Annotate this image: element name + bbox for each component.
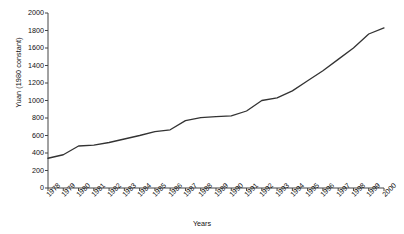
line-chart: Yuan (1980 constant) 0200400600800100012… xyxy=(0,0,404,234)
x-axis-tick-label: 1992 xyxy=(258,182,275,199)
x-axis-tick-label: 1996 xyxy=(319,182,336,199)
x-axis-tick-label: 1989 xyxy=(213,182,230,199)
x-axis-tick-label: 1979 xyxy=(60,182,77,199)
x-axis-tick-label: 1995 xyxy=(304,182,321,199)
x-axis-tick-label: 1984 xyxy=(136,182,153,199)
x-axis-tick-label: 1991 xyxy=(243,182,260,199)
x-axis-tick-label: 1997 xyxy=(335,182,352,199)
x-axis-tick-label: 1990 xyxy=(228,182,245,199)
x-axis-tick-label: 1998 xyxy=(350,182,367,199)
x-axis-tick-label: 1985 xyxy=(151,182,168,199)
x-axis-tick-label: 1978 xyxy=(45,182,62,199)
x-axis-tick-label: 2000 xyxy=(381,182,398,199)
x-axis-tick-labels: 1978197919801981198219831984198519861987… xyxy=(0,0,404,234)
x-axis-title: Years xyxy=(0,219,404,228)
x-axis-tick-label: 1981 xyxy=(90,182,107,199)
x-axis-tick-label: 1994 xyxy=(289,182,306,199)
x-axis-tick-label: 1988 xyxy=(197,182,214,199)
x-axis-tick-label: 1993 xyxy=(274,182,291,199)
x-axis-tick-label: 1986 xyxy=(167,182,184,199)
x-axis-tick-label: 1983 xyxy=(121,182,138,199)
x-axis-tick-label: 1987 xyxy=(182,182,199,199)
x-axis-tick-label: 1982 xyxy=(106,182,123,199)
x-axis-tick-label: 1980 xyxy=(75,182,92,199)
x-axis-tick-label: 1999 xyxy=(365,182,382,199)
